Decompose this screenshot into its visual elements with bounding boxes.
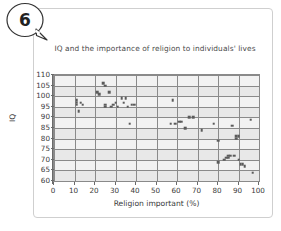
gridline-vertical (75, 75, 76, 181)
y-axis-label: IQ (8, 114, 17, 122)
gridline-vertical (218, 75, 219, 181)
y-tick-label: 65 (28, 165, 50, 174)
data-point (237, 159, 240, 162)
data-point (243, 165, 246, 168)
x-tick-label: 20 (89, 186, 98, 195)
x-tick-label: 10 (69, 186, 78, 195)
y-tick-label: 95 (28, 101, 50, 110)
x-tick-label: 90 (233, 186, 242, 195)
data-point (188, 116, 191, 119)
y-tick-label: 105 (28, 80, 50, 89)
gridline-vertical (259, 75, 260, 181)
data-point (127, 106, 130, 109)
gridline-vertical (54, 75, 55, 181)
data-point (184, 127, 187, 130)
data-point (217, 139, 220, 142)
x-tick-label: 70 (192, 186, 201, 195)
data-point (172, 99, 175, 102)
y-tick-label: 80 (28, 133, 50, 142)
question-number-badge: 6 (6, 2, 52, 44)
y-tick-label: 100 (28, 91, 50, 100)
y-tick-mark (51, 148, 54, 149)
y-tick-label: 75 (28, 144, 50, 153)
data-point (122, 101, 125, 104)
x-tick-mark (115, 182, 116, 185)
gridline-horizontal (54, 181, 259, 182)
y-tick-label: 60 (28, 176, 50, 185)
gridline-vertical (198, 75, 199, 181)
data-point (75, 99, 78, 102)
data-point (108, 91, 111, 94)
scatter-plot-area (53, 74, 260, 182)
y-tick-mark (51, 127, 54, 128)
y-tick-mark (51, 106, 54, 107)
x-tick-label: 50 (151, 186, 160, 195)
y-axis-tick-labels: 6065707580859095100105110 (26, 74, 50, 182)
x-tick-mark (258, 182, 259, 185)
x-tick-mark (176, 182, 177, 185)
data-point (116, 106, 119, 109)
x-tick-label: 60 (171, 186, 180, 195)
data-point (250, 118, 253, 121)
x-tick-mark (74, 182, 75, 185)
y-tick-label: 110 (28, 70, 50, 79)
data-point (192, 116, 195, 119)
badge-number-text: 6 (6, 2, 44, 38)
data-point (81, 103, 84, 106)
x-tick-label: 40 (130, 186, 139, 195)
x-tick-label: 30 (110, 186, 119, 195)
data-point (229, 154, 232, 157)
y-tick-mark (51, 159, 54, 160)
data-point (252, 171, 255, 174)
chart-title: IQ and the importance of religion to ind… (40, 44, 270, 53)
data-point (233, 154, 236, 157)
gridline-vertical (136, 75, 137, 181)
gridline-vertical (116, 75, 117, 181)
x-axis-tick-labels: 0102030405060708090100 (53, 186, 260, 198)
data-point (120, 97, 123, 100)
y-tick-label: 90 (28, 112, 50, 121)
y-tick-label: 85 (28, 123, 50, 132)
data-point (114, 101, 117, 104)
data-point (170, 122, 173, 125)
y-tick-mark (51, 74, 54, 75)
y-tick-mark (51, 116, 54, 117)
data-point (129, 122, 132, 125)
data-point (133, 103, 136, 106)
x-tick-label: 0 (51, 186, 56, 195)
y-tick-mark (51, 169, 54, 170)
x-tick-mark (217, 182, 218, 185)
y-tick-label: 70 (28, 154, 50, 163)
y-tick-mark (51, 85, 54, 86)
data-point (180, 120, 183, 123)
data-point (174, 122, 177, 125)
x-tick-mark (238, 182, 239, 185)
data-point (231, 125, 234, 128)
y-tick-mark (51, 138, 54, 139)
y-tick-mark (51, 180, 54, 181)
data-point (237, 135, 240, 138)
data-point (104, 106, 107, 109)
x-tick-mark (156, 182, 157, 185)
data-point (217, 161, 220, 164)
data-point (104, 84, 107, 87)
x-tick-label: 80 (212, 186, 221, 195)
data-point (213, 122, 216, 125)
data-point (75, 103, 78, 106)
y-tick-mark (51, 95, 54, 96)
x-tick-mark (197, 182, 198, 185)
data-point (124, 97, 127, 100)
data-point (200, 129, 203, 132)
gridline-vertical (177, 75, 178, 181)
x-tick-mark (94, 182, 95, 185)
data-point (77, 110, 80, 113)
x-axis-label: Religion important (%) (53, 199, 260, 208)
data-point (98, 93, 101, 96)
x-tick-mark (53, 182, 54, 185)
x-tick-mark (135, 182, 136, 185)
gridline-vertical (157, 75, 158, 181)
figure-container: 6 IQ and the importance of religion to i… (0, 0, 281, 231)
x-tick-label: 100 (251, 186, 265, 195)
